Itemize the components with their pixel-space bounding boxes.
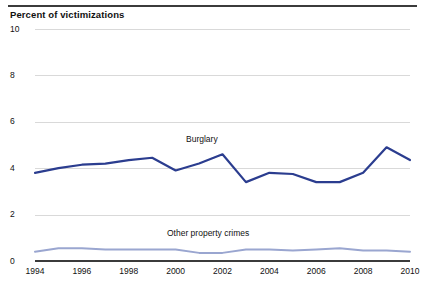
bottom-padding: [0, 288, 425, 295]
line-burglary: [35, 147, 410, 182]
series-label-burglary: Burglary: [186, 134, 218, 144]
line-other-property-crimes: [35, 248, 410, 253]
series-label-other-property-crimes: Other property crimes: [167, 228, 249, 238]
chart-figure: Percent of victimizations 0246810 199419…: [0, 0, 425, 295]
plot-area: 0246810 19941996199820002002200420062008…: [0, 0, 425, 295]
series-lines: [0, 0, 425, 295]
